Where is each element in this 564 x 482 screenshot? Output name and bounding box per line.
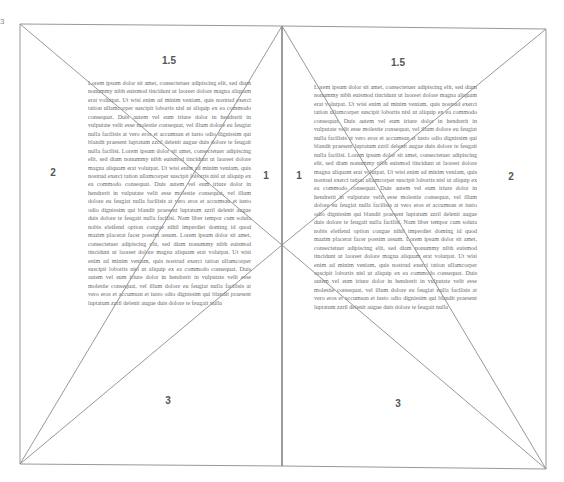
right-outer-margin-label: 2	[508, 171, 514, 182]
page-margin-diagram: 3 Lorem ipsum dolor sit amet, consectetu…	[0, 0, 564, 482]
construction-lines	[0, 0, 564, 482]
right-bottom-margin-label: 3	[395, 398, 401, 409]
left-page-text-block: Lorem ipsum dolor sit amet, consectetuer…	[88, 79, 251, 307]
corner-marker: 3	[0, 17, 4, 26]
right-inner-margin-label: 1	[296, 170, 302, 181]
right-top-margin-label: 1.5	[391, 57, 405, 68]
left-inner-margin-label: 1	[263, 170, 269, 181]
right-page-text-block: Lorem ipsum dolor sit amet, consectetuer…	[314, 83, 477, 311]
left-outer-margin-label: 2	[50, 167, 56, 178]
left-bottom-margin-label: 3	[165, 395, 171, 406]
left-top-margin-label: 1.5	[162, 55, 176, 66]
